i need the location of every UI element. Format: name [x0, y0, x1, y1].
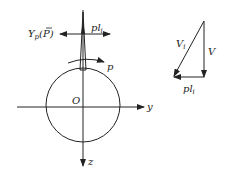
force-right-label: pli [91, 22, 103, 35]
z-axis-label: z [87, 156, 94, 167]
rotation-label: p [107, 61, 114, 72]
blade-tip [81, 22, 85, 34]
y-axis-label: y [146, 101, 153, 112]
vi-label: Vi [176, 38, 185, 51]
force-left-label: Yp(P) [28, 28, 54, 41]
left-figure: Yp(P) pli p O y z [17, 10, 153, 167]
velocity-triangle: Vi V pli [174, 21, 217, 96]
diagram-canvas: Yp(P) pli p O y z Vi V pli [0, 0, 227, 176]
v-label: V [208, 46, 217, 57]
pl-label: pli [183, 83, 195, 96]
origin-label: O [72, 95, 80, 106]
